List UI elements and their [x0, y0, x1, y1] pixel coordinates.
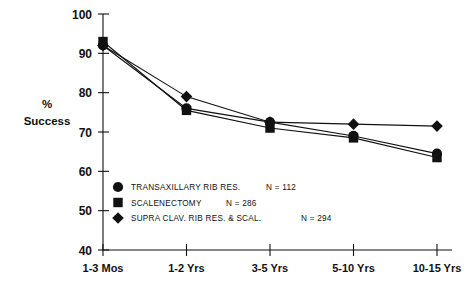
legend-label: SCALENECTOMY — [131, 199, 202, 208]
y-tick-label: 90 — [79, 47, 93, 61]
legend-label: SUPRA CLAV. RIB RES. & SCAL. — [131, 214, 261, 223]
x-tick-label: 1-2 Yrs — [168, 262, 205, 274]
y-tick-label: 80 — [79, 86, 93, 100]
chart-background — [0, 0, 472, 285]
success-line-chart: 100908070605040 1-3 Mos1-2 Yrs3-5 Yrs5-1… — [0, 0, 472, 285]
legend-n-value: N = 286 — [226, 199, 257, 208]
y-tick-label: 100 — [72, 8, 92, 22]
x-tick-label: 10-15 Yrs — [413, 262, 462, 274]
x-tick-label: 5-10 Yrs — [332, 262, 375, 274]
y-tick-label: 70 — [79, 126, 93, 140]
y-axis-title-line1: % — [42, 98, 52, 110]
y-tick-label: 60 — [79, 165, 93, 179]
legend-square-marker — [113, 198, 122, 207]
legend-label: TRANSAXILLARY RIB RES. — [131, 183, 240, 192]
y-tick-label: 50 — [79, 204, 93, 218]
legend-n-value: N = 112 — [266, 183, 296, 192]
y-axis-title-line2: Success — [24, 115, 71, 127]
x-tick-label: 3-5 Yrs — [252, 262, 289, 274]
data-point-square — [349, 133, 358, 142]
data-point-square — [182, 106, 191, 115]
y-tick-label: 40 — [79, 244, 93, 258]
chart-container: 100908070605040 1-3 Mos1-2 Yrs3-5 Yrs5-1… — [0, 0, 472, 285]
x-tick-label: 1-3 Mos — [83, 262, 124, 274]
legend-n-value: N = 294 — [301, 214, 332, 223]
legend-circle-marker — [113, 182, 123, 192]
data-point-square — [432, 153, 441, 162]
